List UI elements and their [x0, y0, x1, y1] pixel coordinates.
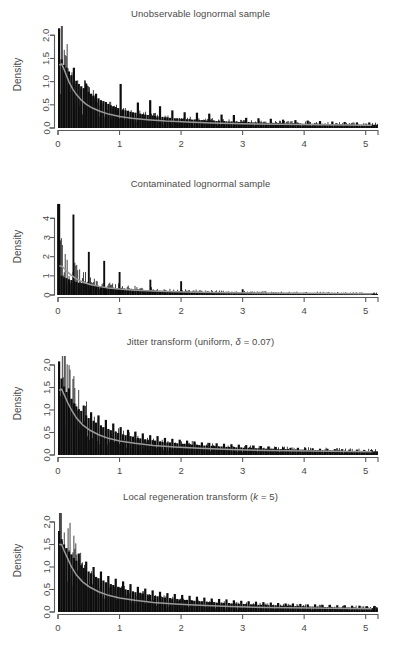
x-axis-line	[58, 615, 378, 620]
x-axis-tick-label: 3	[240, 622, 245, 633]
x-axis-line	[58, 458, 378, 463]
y-axis-tick-label: 1.5	[41, 538, 52, 551]
x-axis-tick-label: 2	[178, 465, 183, 476]
plot-area: 0123450.00.51.01.52.0	[0, 0, 401, 170]
x-axis-tick-label: 4	[302, 138, 307, 149]
y-axis-tick-label: 2.0	[41, 515, 52, 528]
y-axis-tick-label: 2.0	[41, 358, 52, 371]
x-axis-tick-label: 1	[117, 622, 122, 633]
x-axis-line	[58, 298, 378, 303]
y-axis-tick-label: 0.0	[41, 605, 52, 618]
x-axis-tick-label: 5	[363, 138, 368, 149]
y-axis-tick-label: 0.5	[41, 98, 52, 111]
histogram-bars	[58, 361, 378, 455]
y-axis-tick-label: 3	[41, 235, 52, 240]
plot-area: 0123450.00.51.01.52.0	[0, 330, 401, 485]
x-axis-tick-label: 0	[55, 622, 60, 633]
y-axis-tick-label: 0.5	[41, 583, 52, 596]
y-axis-tick-label: 0	[41, 292, 52, 297]
plot-area: 0123450.00.51.01.52.0	[0, 485, 401, 650]
x-axis-tick-label: 4	[302, 622, 307, 633]
y-axis-tick-label: 2.0	[41, 29, 52, 42]
y-axis-tick-label: 1.5	[41, 52, 52, 65]
x-axis-tick-label: 0	[55, 465, 60, 476]
x-axis-tick-label: 1	[117, 138, 122, 149]
histogram-fine-bars	[58, 238, 378, 295]
x-axis-tick-label: 1	[117, 305, 122, 316]
y-axis-tick-label: 0.0	[41, 121, 52, 134]
y-axis-tick-label: 1	[41, 273, 52, 278]
histogram-bars	[58, 531, 378, 612]
x-axis-tick-label: 2	[178, 305, 183, 316]
contamination-spikes	[57, 204, 244, 295]
chart-panel-1: Unobservable lognormal sampleDensity0123…	[0, 0, 401, 170]
x-axis-tick-label: 5	[363, 465, 368, 476]
x-axis-tick-label: 1	[117, 465, 122, 476]
x-axis-tick-label: 3	[240, 305, 245, 316]
y-axis-tick-label: 2	[41, 254, 52, 259]
x-axis-tick-label: 2	[178, 622, 183, 633]
x-axis-tick-label: 2	[178, 138, 183, 149]
x-axis-tick-label: 0	[55, 305, 60, 316]
figure-panel-grid: Unobservable lognormal sampleDensity0123…	[0, 0, 401, 650]
plot-area: 01234501234	[0, 170, 401, 330]
y-axis-tick-label: 1.0	[41, 560, 52, 573]
chart-panel-2: Contaminated lognormal sampleDensity0123…	[0, 170, 401, 330]
x-axis-tick-label: 4	[302, 305, 307, 316]
histogram-bars	[58, 204, 378, 295]
x-axis-tick-label: 3	[240, 138, 245, 149]
chart-panel-3: Jitter transform (uniform, δ = 0.07)Dens…	[0, 330, 401, 485]
x-axis-tick-label: 4	[302, 465, 307, 476]
y-axis-tick-label: 0.5	[41, 426, 52, 439]
x-axis-tick-label: 5	[363, 305, 368, 316]
chart-panel-4: Local regeneration transform (k = 5)Dens…	[0, 485, 401, 650]
y-axis-tick-label: 1.0	[41, 75, 52, 88]
x-axis-tick-label: 5	[363, 622, 368, 633]
y-axis-tick-label: 1.5	[41, 381, 52, 394]
y-axis-tick-label: 1.0	[41, 403, 52, 416]
y-axis-tick-label: 0.0	[41, 448, 52, 461]
y-axis-tick-label: 4	[41, 216, 52, 221]
x-axis-tick-label: 3	[240, 465, 245, 476]
x-axis-line	[58, 131, 378, 136]
x-axis-tick-label: 0	[55, 138, 60, 149]
